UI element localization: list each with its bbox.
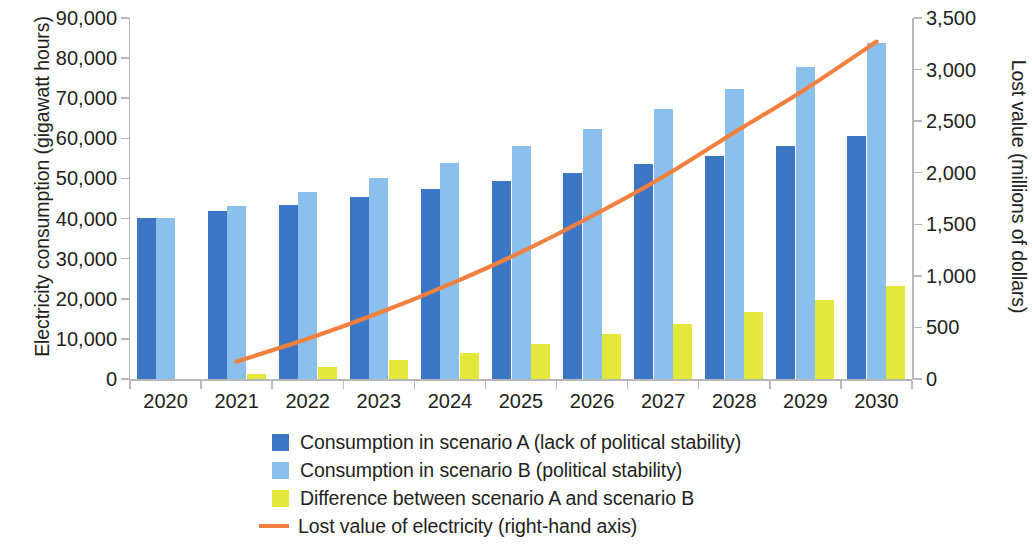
- bar-difference-2027: [673, 324, 692, 379]
- chart-figure: Electricity consumption (gigawatt hours)…: [0, 0, 1032, 547]
- y-axis-tick: [121, 298, 129, 300]
- chart-legend: Consumption in scenario A (lack of polit…: [0, 428, 1032, 540]
- y2-axis-tick: [914, 378, 922, 380]
- bar-scenario-a-2022: [279, 205, 298, 379]
- y-axis-tick: [121, 138, 129, 140]
- legend-item-label: Difference between scenario A and scenar…: [300, 487, 694, 510]
- bar-scenario-b-2027: [654, 109, 673, 379]
- y-axis-tick: [121, 218, 129, 220]
- bar-scenario-b-2030: [867, 43, 886, 379]
- legend-item-label: Consumption in scenario A (lack of polit…: [300, 431, 741, 454]
- y2-axis-tick: [914, 69, 922, 71]
- bar-scenario-a-2027: [634, 164, 653, 379]
- bar-difference-2029: [815, 300, 834, 379]
- x-axis-tick: [200, 381, 202, 389]
- x-axis-tick-label: 2022: [268, 391, 348, 411]
- x-axis-tick-label: 2030: [836, 391, 916, 411]
- y2-axis-tick-label: 1,500: [926, 214, 976, 234]
- plot-area: 010,00020,00030,00040,00050,00060,00070,…: [0, 0, 1032, 420]
- y2-axis-tick: [914, 17, 922, 19]
- bar-difference-2023: [389, 360, 408, 379]
- legend-item-1[interactable]: Consumption in scenario B (political sta…: [0, 456, 1032, 484]
- y2-axis-tick-label: 1,000: [926, 266, 976, 286]
- bar-scenario-b-2021: [227, 206, 246, 379]
- bar-scenario-b-2022: [298, 192, 317, 379]
- y2-axis-tick: [914, 224, 922, 226]
- y2-axis-tick: [914, 120, 922, 122]
- legend-item-0[interactable]: Consumption in scenario A (lack of polit…: [0, 428, 1032, 456]
- y-axis-tick-label: 90,000: [7, 8, 117, 28]
- y-axis-tick: [121, 178, 129, 180]
- x-axis-tick: [840, 381, 842, 389]
- x-axis-tick: [911, 381, 913, 389]
- x-axis-tick-label: 2027: [623, 391, 703, 411]
- bar-scenario-a-2030: [847, 136, 866, 379]
- y-axis-tick: [121, 57, 129, 59]
- y-axis-tick-label: 30,000: [7, 249, 117, 269]
- bar-scenario-a-2021: [208, 211, 227, 379]
- x-axis-tick: [343, 381, 345, 389]
- y2-axis-tick-label: 3,000: [926, 60, 976, 80]
- x-axis-tick-label: 2021: [197, 391, 277, 411]
- y-axis-tick-label: 0: [7, 369, 117, 389]
- bar-scenario-b-2028: [725, 89, 744, 379]
- x-axis-tick: [556, 381, 558, 389]
- x-axis-tick-label: 2024: [410, 391, 490, 411]
- legend-item-2[interactable]: Difference between scenario A and scenar…: [0, 484, 1032, 512]
- bar-difference-2022: [318, 367, 337, 379]
- y-axis-tick-label: 20,000: [7, 289, 117, 309]
- bar-difference-2028: [744, 312, 763, 379]
- y-axis-tick-label: 60,000: [7, 128, 117, 148]
- bar-scenario-a-2024: [421, 189, 440, 379]
- legend-color-swatch-icon: [272, 462, 289, 479]
- x-axis-tick-label: 2029: [765, 391, 845, 411]
- y2-axis-tick-label: 500: [926, 317, 959, 337]
- bar-scenario-a-2020: [137, 218, 156, 379]
- y-axis-tick: [121, 17, 129, 19]
- y-axis-tick-label: 40,000: [7, 209, 117, 229]
- x-axis-tick: [129, 381, 131, 389]
- y2-axis-tick-label: 3,500: [926, 8, 976, 28]
- x-axis-tick-label: 2025: [481, 391, 561, 411]
- bar-scenario-a-2029: [776, 146, 795, 379]
- y-axis-tick: [121, 378, 129, 380]
- bar-scenario-b-2025: [512, 146, 531, 379]
- bar-scenario-b-2023: [369, 178, 388, 379]
- bar-scenario-b-2024: [440, 163, 459, 379]
- y-axis-tick-label: 10,000: [7, 329, 117, 349]
- y2-axis-tick: [914, 275, 922, 277]
- legend-line-swatch-icon: [259, 524, 289, 528]
- y-axis-tick: [121, 338, 129, 340]
- y-axis-tick-label: 80,000: [7, 48, 117, 68]
- x-axis-tick: [485, 381, 487, 389]
- bar-scenario-b-2020: [156, 218, 175, 379]
- y2-axis-tick-label: 2,500: [926, 111, 976, 131]
- axis-line: [129, 18, 131, 380]
- y2-axis-tick: [914, 172, 922, 174]
- legend-item-3[interactable]: Lost value of electricity (right-hand ax…: [0, 512, 1032, 540]
- y2-axis-tick: [914, 327, 922, 329]
- y2-axis-tick-label: 0: [926, 369, 937, 389]
- bar-scenario-a-2023: [350, 197, 369, 379]
- y-axis-tick: [121, 258, 129, 260]
- x-axis-line: [129, 379, 913, 381]
- x-axis-tick: [414, 381, 416, 389]
- bar-difference-2026: [602, 334, 621, 379]
- legend-color-swatch-icon: [272, 434, 289, 451]
- bar-difference-2030: [886, 286, 905, 379]
- bar-difference-2021: [247, 374, 266, 379]
- y-axis-tick-label: 50,000: [7, 168, 117, 188]
- x-axis-tick-label: 2020: [126, 391, 206, 411]
- bar-scenario-a-2025: [492, 181, 511, 379]
- x-axis-tick: [271, 381, 273, 389]
- legend-color-swatch-icon: [272, 490, 289, 507]
- x-axis-tick-label: 2023: [339, 391, 419, 411]
- bar-difference-2025: [531, 344, 550, 379]
- x-axis-tick: [769, 381, 771, 389]
- x-axis-tick: [627, 381, 629, 389]
- x-axis-tick: [698, 381, 700, 389]
- bar-scenario-a-2028: [705, 156, 724, 379]
- y2-axis-tick-label: 2,000: [926, 163, 976, 183]
- x-axis-tick-label: 2028: [694, 391, 774, 411]
- y-axis-tick: [121, 97, 129, 99]
